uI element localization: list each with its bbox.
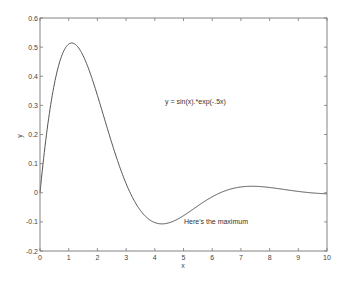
x-axis-label: x	[181, 262, 185, 269]
y-tick-label: -0.2	[26, 248, 38, 255]
y-axis-label: y	[16, 134, 24, 138]
x-tick-label: 6	[210, 254, 214, 261]
y-tick-label: 0	[34, 189, 38, 196]
x-tick-label: 7	[239, 254, 243, 261]
x-tick-label: 2	[95, 254, 99, 261]
y-tick-label: 0.1	[28, 160, 38, 167]
formula-annotation: y = sin(x).*exp(-.5x)	[165, 98, 226, 106]
y-tick-label: 0.3	[28, 102, 38, 109]
line-chart: 012345678910 -0.2-0.100.10.20.30.40.50.6…	[0, 0, 349, 282]
y-tick-label: 0.5	[28, 44, 38, 51]
y-tick-label: 0.6	[28, 15, 38, 22]
x-tick-label: 9	[296, 254, 300, 261]
y-tick-label: 0.2	[28, 131, 38, 138]
x-tick-label: 4	[153, 254, 157, 261]
x-tick-label: 0	[38, 254, 42, 261]
y-tick-label: 0.4	[28, 73, 38, 80]
x-tick-label: 1	[67, 254, 71, 261]
x-tick-label: 8	[268, 254, 272, 261]
x-tick-label: 10	[323, 254, 331, 261]
x-tick-label: 3	[124, 254, 128, 261]
x-tick-label: 5	[182, 254, 186, 261]
y-tick-label: -0.1	[26, 218, 38, 225]
maximum-annotation: Here's the maximum	[184, 218, 248, 225]
